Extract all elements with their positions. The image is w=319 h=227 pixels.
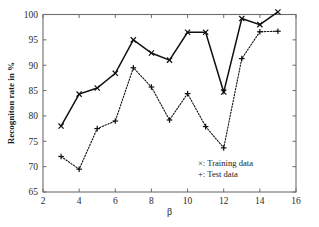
y-tick-label: 65 [29,187,39,197]
y-tick-label: 70 [29,162,39,172]
recognition-rate-chart: 246810121416 65707580859095100 β Recogni… [0,0,319,227]
y-tick-label: 90 [29,61,39,71]
y-tick-label: 75 [29,137,39,147]
y-tick-label: 85 [29,86,39,96]
x-tick-label: 16 [291,196,301,206]
y-tick-label: 100 [24,10,39,20]
x-tick-label: 2 [41,196,46,206]
x-tick-label: 4 [77,196,82,206]
y-axis-title: Recogniton rate in % [6,62,16,144]
x-tick-label: 14 [255,196,265,206]
y-tick-label: 95 [29,35,39,45]
x-tick-label: 10 [183,196,193,206]
x-tick-label: 8 [149,196,154,206]
legend-entry-test: +: Test data [198,169,238,179]
x-tick-label: 6 [113,196,118,206]
chart-background [0,0,319,227]
y-tick-label: 80 [29,111,39,121]
x-axis-title: β [167,206,172,217]
x-tick-label: 12 [219,196,229,206]
legend-entry-training: ×: Training data [198,158,253,168]
